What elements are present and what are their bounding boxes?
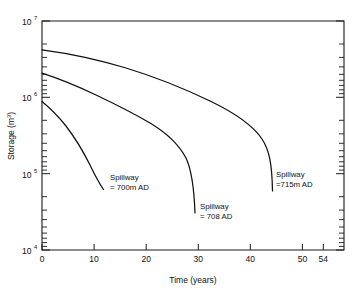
x-tick-label-50: 50 (298, 254, 308, 264)
y-tick-mantissa-1e6: 10 (22, 93, 32, 103)
y-tick-exponent-1e7: 7 (34, 15, 37, 21)
annot-700-line1: Spillway (110, 173, 139, 182)
y-tick-exponent-1e5: 5 (34, 168, 37, 174)
annot-700-line2: = 700m AD (110, 183, 149, 192)
y-tick-mantissa-1e4: 10 (22, 246, 32, 256)
y-axis-title-main: Storage (m (6, 118, 16, 160)
annot-708-line1: Spillway (200, 202, 229, 211)
y-axis-title-text: Storage (m3) (6, 112, 17, 160)
y-tick-mantissa-1e5: 10 (22, 170, 32, 180)
chart-figure: 0 10 20 30 40 50 54 10 7 10 6 10 5 10 4 … (0, 0, 357, 292)
chart-svg: 0 10 20 30 40 50 54 10 7 10 6 10 5 10 4 … (0, 0, 357, 292)
annot-708-line2: = 708 AD (200, 212, 233, 221)
y-tick-exponent-1e6: 6 (34, 91, 37, 97)
x-tick-label-30: 30 (194, 254, 204, 264)
x-axis-title-text: Time (years) (169, 275, 217, 285)
x-tick-label-40: 40 (246, 254, 256, 264)
annot-708: Spillway = 708 AD (200, 202, 233, 221)
y-axis-title: Storage (m3) (6, 112, 17, 160)
x-axis-title: Time (years) (169, 275, 217, 285)
x-tick-label-0: 0 (40, 254, 45, 264)
annot-715-line1: Spillway (276, 170, 305, 179)
x-tick-label-54: 54 (319, 254, 329, 264)
x-tick-label-10: 10 (89, 254, 99, 264)
x-tick-label-20: 20 (141, 254, 151, 264)
annot-715-line2: =715m AD (276, 180, 313, 189)
y-axis-title-close: ) (6, 112, 16, 115)
y-tick-mantissa-1e7: 10 (22, 17, 32, 27)
